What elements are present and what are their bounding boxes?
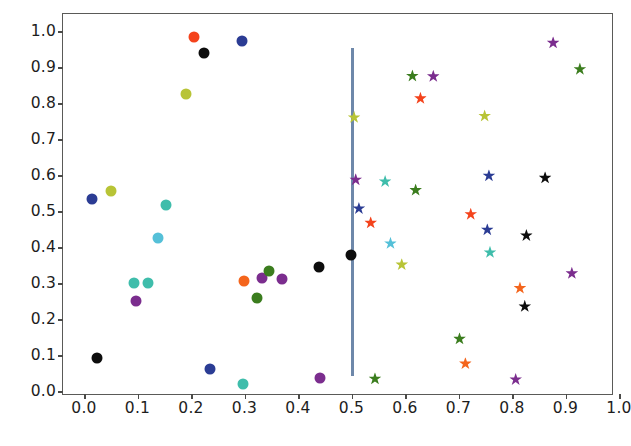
y-tick <box>58 139 63 140</box>
vertical-threshold-line <box>351 48 353 376</box>
circle-marker <box>128 277 139 288</box>
star-marker <box>352 202 365 215</box>
x-tick-label: 1.0 <box>606 399 631 417</box>
circle-marker <box>239 276 250 287</box>
y-tick-label: 0.0 <box>31 382 56 400</box>
circle-marker <box>188 32 199 43</box>
y-tick-label: 0.6 <box>31 166 56 184</box>
star-marker <box>414 92 427 105</box>
circle-marker <box>91 353 102 364</box>
star-marker <box>406 69 419 82</box>
plot-area <box>62 13 613 395</box>
star-marker <box>368 372 381 385</box>
x-tick <box>245 394 246 399</box>
star-marker <box>481 223 494 236</box>
x-tick-label: 0.7 <box>446 399 471 417</box>
y-tick <box>58 319 63 320</box>
x-tick <box>352 394 353 399</box>
circle-marker <box>315 372 326 383</box>
star-marker <box>464 208 477 221</box>
y-tick <box>58 67 63 68</box>
star-marker <box>483 246 496 259</box>
y-tick <box>58 283 63 284</box>
y-tick <box>58 103 63 104</box>
star-marker <box>509 373 522 386</box>
circle-marker <box>236 35 247 46</box>
x-tick <box>619 394 620 399</box>
star-marker <box>395 258 408 271</box>
circle-marker <box>277 274 288 285</box>
y-tick <box>58 355 63 356</box>
x-tick <box>405 394 406 399</box>
x-tick <box>138 394 139 399</box>
star-marker <box>348 111 361 124</box>
y-tick-label: 0.4 <box>31 238 56 256</box>
y-tick <box>58 175 63 176</box>
y-tick-label: 0.9 <box>31 58 56 76</box>
y-tick-label: 0.7 <box>31 130 56 148</box>
circle-marker <box>105 186 116 197</box>
x-tick-label: 0.5 <box>339 399 364 417</box>
circle-marker <box>238 378 249 389</box>
y-tick <box>58 211 63 212</box>
star-marker <box>565 267 578 280</box>
star-marker <box>513 281 526 294</box>
x-tick-label: 0.4 <box>285 399 310 417</box>
star-marker <box>539 171 552 184</box>
star-marker <box>379 175 392 188</box>
y-tick-label: 0.8 <box>31 94 56 112</box>
circle-marker <box>86 194 97 205</box>
x-tick-label: 0.2 <box>178 399 203 417</box>
star-marker <box>364 216 377 229</box>
y-tick-label: 0.2 <box>31 310 56 328</box>
y-tick-label: 0.3 <box>31 274 56 292</box>
star-marker <box>520 229 533 242</box>
circle-marker <box>345 250 356 261</box>
star-marker <box>409 184 422 197</box>
star-marker <box>427 70 440 83</box>
x-tick-label: 0.8 <box>499 399 524 417</box>
star-marker <box>573 63 586 76</box>
star-marker <box>482 169 495 182</box>
circle-marker <box>199 47 210 58</box>
y-tick <box>58 31 63 32</box>
star-marker <box>518 300 531 313</box>
circle-marker <box>313 262 324 273</box>
circle-marker <box>251 292 262 303</box>
y-tick <box>58 247 63 248</box>
circle-marker <box>153 232 164 243</box>
x-tick <box>191 394 192 399</box>
x-tick-label: 0.9 <box>553 399 578 417</box>
star-marker <box>459 357 472 370</box>
circle-marker <box>180 89 191 100</box>
y-tick-label: 0.1 <box>31 346 56 364</box>
y-tick <box>58 391 63 392</box>
circle-marker <box>204 363 215 374</box>
x-tick-label: 0.6 <box>392 399 417 417</box>
star-marker <box>453 332 466 345</box>
circle-marker <box>264 265 275 276</box>
circle-marker <box>131 296 142 307</box>
circle-marker <box>161 200 172 211</box>
x-tick-label: 0.1 <box>125 399 150 417</box>
star-marker <box>547 36 560 49</box>
star-marker <box>384 237 397 250</box>
circle-marker <box>142 277 153 288</box>
x-tick <box>84 394 85 399</box>
x-tick <box>298 394 299 399</box>
star-marker <box>478 109 491 122</box>
y-tick-label: 1.0 <box>31 22 56 40</box>
x-tick <box>566 394 567 399</box>
x-tick-label: 0.0 <box>71 399 96 417</box>
x-tick-label: 0.3 <box>232 399 257 417</box>
x-tick <box>512 394 513 399</box>
y-tick-label: 0.5 <box>31 202 56 220</box>
scatter-plot-figure: 0.00.10.20.30.40.50.60.70.80.91.0 0.00.1… <box>0 0 631 446</box>
x-tick <box>459 394 460 399</box>
